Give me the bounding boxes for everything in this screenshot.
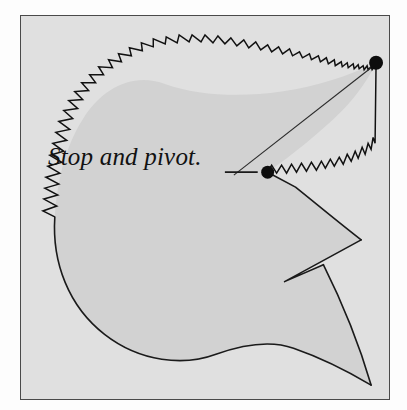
shape-fill-body (54, 63, 376, 385)
pivot-dot (261, 166, 274, 179)
figure-page: Stop and pivot. (0, 0, 407, 410)
annotation-label: Stop and pivot. (48, 144, 202, 169)
figure-canvas (21, 16, 389, 399)
figure-frame (20, 15, 390, 400)
apex-dot (369, 56, 383, 70)
